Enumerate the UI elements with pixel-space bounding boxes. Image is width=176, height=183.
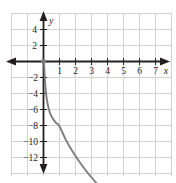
- y-axis-bottom-arrowhead: [40, 164, 48, 174]
- x-tick-label-7: 7: [153, 66, 158, 76]
- curve-origin-dot: [41, 59, 46, 64]
- y-axis-top-arrowhead: [40, 11, 48, 21]
- x-tick-label-6: 6: [137, 66, 142, 76]
- graph-canvas: 1 2 3 4 5 6 7 4 2 −2 −4 −6 −8 −10 −12 y …: [0, 0, 176, 183]
- x-tick-label-1: 1: [57, 66, 62, 76]
- x-tick-label-2: 2: [73, 66, 78, 76]
- y-tick-label-minus-8: −8: [28, 121, 38, 131]
- x-tick-label-4: 4: [105, 66, 110, 76]
- coordinate-graph-figure: 1 2 3 4 5 6 7 4 2 −2 −4 −6 −8 −10 −12 y …: [0, 0, 176, 183]
- curve-line: [44, 65, 163, 183]
- y-tick-label-minus-4: −4: [28, 89, 38, 99]
- y-axis-label: y: [48, 15, 54, 26]
- y-tick-label-minus-10: −10: [23, 137, 38, 147]
- y-tick-label-2: 2: [32, 41, 37, 51]
- y-tick-label-minus-6: −6: [28, 105, 38, 115]
- x-axis: [6, 58, 170, 66]
- y-tick-label-minus-2: −2: [28, 73, 38, 83]
- x-axis-label: x: [163, 65, 169, 76]
- x-tick-label-5: 5: [121, 66, 126, 76]
- y-tick-label-minus-12: −12: [23, 153, 38, 163]
- y-tick-label-4: 4: [32, 25, 37, 35]
- x-tick-label-3: 3: [89, 66, 94, 76]
